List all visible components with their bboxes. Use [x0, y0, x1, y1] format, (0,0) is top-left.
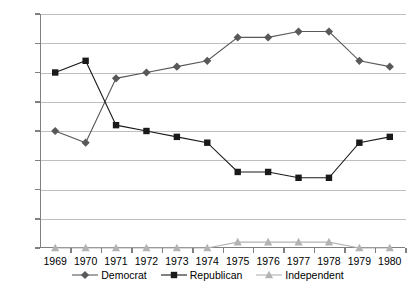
- legend-marker-square-icon: [161, 269, 187, 281]
- chart-legend: DemocratRepublicanIndependent: [0, 269, 416, 281]
- legend-marker-triangle-icon: [256, 269, 282, 281]
- legend-item-democrat[interactable]: Democrat: [72, 269, 147, 281]
- x-tick-mark: [314, 248, 316, 253]
- gridline: [41, 160, 406, 161]
- legend-label: Republican: [190, 269, 243, 281]
- plot-area: [40, 14, 405, 248]
- x-tick-mark: [223, 248, 225, 253]
- gridline: [41, 14, 406, 15]
- gridline: [41, 219, 406, 220]
- x-tick-mark: [70, 248, 72, 253]
- gridline: [41, 190, 406, 191]
- y-tick-mark: [35, 160, 40, 162]
- y-tick-mark: [35, 13, 40, 15]
- gridline: [41, 43, 406, 44]
- x-tick-mark: [405, 248, 407, 253]
- x-tick-mark: [283, 248, 285, 253]
- y-tick-mark: [35, 72, 40, 74]
- y-tick-mark: [35, 43, 40, 45]
- y-tick-mark: [35, 130, 40, 132]
- y-tick-mark: [35, 247, 40, 249]
- gridline: [41, 131, 406, 132]
- x-tick-mark: [253, 248, 255, 253]
- x-tick-mark: [344, 248, 346, 253]
- y-tick-mark: [35, 218, 40, 220]
- gridline: [41, 102, 406, 103]
- legend-item-independent[interactable]: Independent: [256, 269, 343, 281]
- y-tick-mark: [35, 189, 40, 191]
- x-tick-mark: [131, 248, 133, 253]
- line-chart: DemocratRepublicanIndependent 0510152025…: [0, 0, 416, 290]
- legend-label: Independent: [285, 269, 343, 281]
- x-tick-mark: [375, 248, 377, 253]
- y-tick-mark: [35, 101, 40, 103]
- legend-label: Democrat: [101, 269, 147, 281]
- gridline: [41, 73, 406, 74]
- x-tick-label: 1980: [370, 255, 410, 267]
- x-tick-mark: [192, 248, 194, 253]
- legend-item-republican[interactable]: Republican: [161, 269, 243, 281]
- legend-marker-diamond-icon: [72, 269, 98, 281]
- x-tick-mark: [101, 248, 103, 253]
- x-tick-mark: [162, 248, 164, 253]
